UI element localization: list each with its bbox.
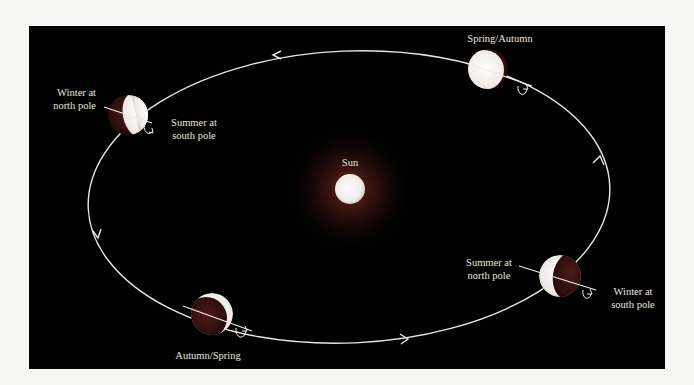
orbit-arrow-top-icon (273, 51, 281, 59)
earth-top-icon (464, 49, 532, 94)
sun-label: Sun (335, 156, 365, 169)
earth-right-icon (519, 249, 596, 302)
earth-bottom-icon (183, 293, 252, 339)
right-north-pole-label: Summer at north pole (456, 256, 522, 282)
top-season-label: Spring/Autumn (452, 32, 548, 45)
left-north-pole-label: Winter at north pole (36, 86, 96, 112)
sun-icon (335, 174, 365, 204)
bottom-season-label: Autumn/Spring (160, 349, 256, 362)
earth-left-icon (104, 86, 161, 139)
right-south-pole-label: Winter at south pole (604, 285, 662, 311)
left-south-pole-label: Summer at south pole (159, 116, 229, 142)
orbit-diagram (0, 0, 694, 385)
orbit-arrow-right-icon (593, 156, 604, 165)
